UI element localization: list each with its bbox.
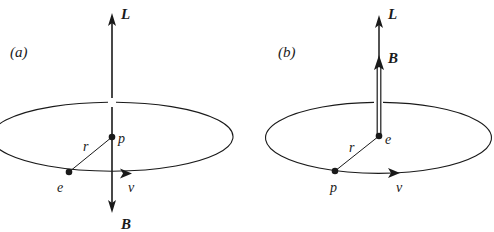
panel-b: (b) L B e p r v: [266, 6, 492, 195]
label-e-b: e: [385, 132, 391, 147]
radius-line-a: [69, 137, 112, 172]
proton-dot-a: [109, 134, 116, 141]
label-r-b: r: [349, 140, 355, 155]
label-e-a: e: [57, 180, 63, 195]
panel-a-label: (a): [10, 44, 28, 61]
electron-dot-a: [66, 169, 73, 176]
label-r-a: r: [83, 139, 89, 154]
radius-line-b: [335, 136, 379, 171]
proton-dot-b: [332, 168, 339, 175]
label-L-a: L: [120, 6, 130, 22]
orbit-diagram: (a) L B p e r v (b) L B: [0, 0, 494, 232]
electron-dot-b: [376, 133, 383, 140]
panel-b-label: (b): [278, 44, 296, 61]
arrow-up-icon: [374, 55, 384, 70]
velocity-arrow-icon-a: [120, 169, 132, 179]
orbit-ellipse-a: [0, 102, 233, 171]
label-B-a: B: [120, 216, 131, 232]
label-v-a: v: [128, 180, 135, 195]
label-L-b: L: [387, 6, 397, 22]
label-v-b: v: [396, 180, 403, 195]
label-B-b: B: [387, 50, 398, 66]
label-p-a: p: [117, 131, 125, 146]
label-p-b: p: [329, 180, 337, 195]
panel-a: (a) L B p e r v: [0, 6, 233, 232]
